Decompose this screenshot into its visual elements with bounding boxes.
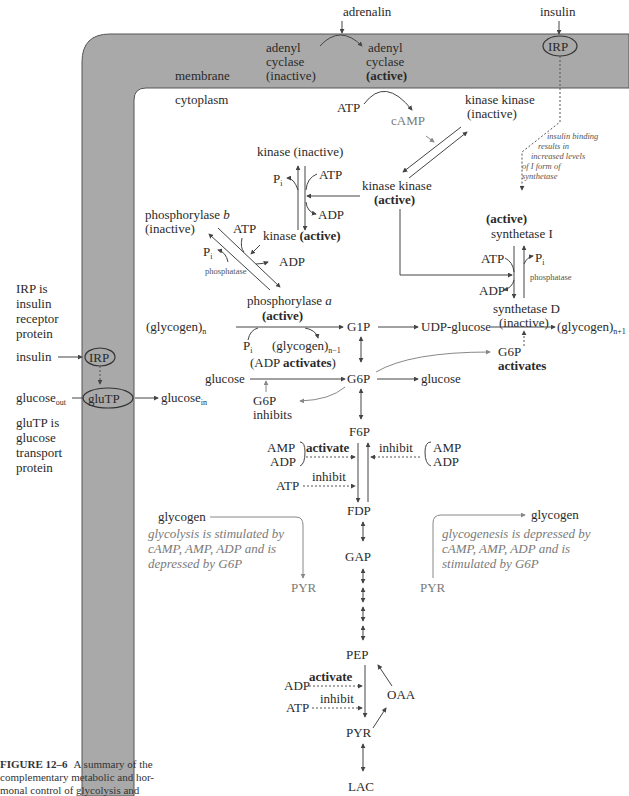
glycogenesis-text-3: stimulated by G6P — [442, 556, 539, 571]
kinase-adp: ADP — [318, 207, 344, 222]
adenyl-cyclase-active-1: adenyl — [368, 40, 403, 55]
glycogen-n-plus-1: (glycogen)n+1 — [557, 319, 626, 336]
glycogenesis-pyr: PYR — [420, 580, 446, 595]
adenyl-cyclase-active-3: (active) — [366, 68, 407, 83]
kinase-pi-arrow — [287, 178, 298, 190]
phosphorylase-b-label: phosphorylase b — [145, 207, 230, 222]
oaa-label: OAA — [387, 687, 416, 702]
atp-left: ATP — [276, 478, 299, 493]
kinase-inactive-label: kinase (inactive) — [257, 144, 343, 159]
phosphorylase-pi-arrow — [218, 250, 228, 262]
phosphorylase-inactivation-arrow — [209, 234, 270, 290]
amp-adp-bracket-left — [300, 442, 305, 466]
glucose-right-label: glucose — [421, 371, 461, 386]
synthetase-adp: ADP — [479, 283, 505, 298]
pyr-label: PYR — [346, 725, 372, 740]
kinase-pi: Pi — [273, 171, 283, 188]
kinase-atp-curve — [306, 174, 317, 190]
glycogen-n: (glycogen)n — [146, 319, 206, 336]
g1p-label: G1P — [347, 319, 370, 334]
kinase-kinase-active-2: (active) — [374, 192, 415, 207]
irp-note-left-4: protein — [16, 326, 53, 341]
phosphorylase-a-label: phosphorylase a — [247, 293, 332, 308]
insulin-top-label: insulin — [540, 4, 576, 19]
lac-label: LAC — [348, 779, 374, 794]
glycolysis-glycogen: glycogen — [158, 509, 206, 524]
glycogen-n-minus-1: (glycogen)n−1 — [272, 338, 341, 355]
inhibit-pep-label: inhibit — [320, 691, 354, 706]
oaa-to-pep-arrow — [378, 665, 392, 686]
irp-note-left-2: insulin — [16, 296, 52, 311]
kinase-active-label: kinase (active) — [263, 228, 341, 243]
synthetase-d-state: (inactive) — [499, 315, 549, 330]
glycolysis-text-2: cAMP, AMP, ADP and is — [148, 541, 276, 556]
kinase-kinase-inactive-1: kinase kinase — [465, 92, 535, 107]
pep-label: PEP — [346, 647, 368, 662]
synthetase-adp-arrow — [504, 280, 514, 290]
synthetase-pi: Pi — [535, 250, 545, 267]
amp-right: AMP — [433, 440, 461, 455]
phosphorylase-adp: ADP — [279, 254, 305, 269]
metabolic-control-diagram: membrane cytoplasm adrenalin adenyl cycl… — [0, 0, 629, 796]
glycolysis-text-1: glycolysis is stimulated by — [148, 526, 284, 541]
atp-pep: ATP — [286, 700, 309, 715]
kinase-kinase-inactive-2: (inactive) — [467, 106, 517, 121]
kk-activation-arrow — [403, 127, 461, 172]
gap-label: GAP — [345, 549, 371, 564]
glycogen-row-pi: Pi — [243, 338, 253, 355]
insulin-left-label: insulin — [16, 349, 52, 364]
adrenalin-label: adrenalin — [343, 4, 392, 19]
irp-left-label: IRP — [89, 350, 109, 365]
kk-inactivation-arrow — [409, 132, 467, 178]
glycogenesis-glycogen: glycogen — [531, 507, 579, 522]
irp-note-left-3: receptor — [16, 311, 59, 326]
figure-caption-2: complementary metabolic and hor- — [0, 771, 154, 783]
adp-left: ADP — [270, 454, 296, 469]
irp-note-1: insulin binding — [547, 131, 598, 141]
fdp-label: FDP — [347, 503, 371, 518]
pyr-to-oaa-arrow — [373, 708, 386, 728]
g6p-feedback-arrow — [300, 387, 345, 401]
figure-caption-3: monal control of glycolysis and — [0, 784, 140, 796]
glutp-note-3: transport — [16, 445, 63, 460]
kinase-kinase-active-1: kinase kinase — [362, 178, 432, 193]
glycogenesis-text-1: glycogenesis is depressed by — [442, 526, 591, 541]
atp-label: ATP — [337, 100, 360, 115]
synthetase-i-label: synthetase I — [491, 226, 553, 241]
phosphorylase-atp: ATP — [233, 221, 256, 236]
kinase-atp: ATP — [319, 167, 342, 182]
g6p-inhibits-1: G6P — [253, 393, 276, 408]
udp-glucose-label: UDP-glucose — [421, 319, 491, 334]
synthetase-phosphatase: phosphatase — [530, 272, 572, 282]
glycolysis-pyr: PYR — [291, 580, 317, 595]
phosphorylase-a-state: (active) — [262, 308, 303, 323]
figure-caption-1: FIGURE 12–6A summary of the — [0, 758, 153, 770]
atp-to-camp-arrow — [364, 91, 412, 110]
adp-right: ADP — [433, 454, 459, 469]
irp-note-left-1: IRP is — [16, 281, 48, 296]
synthetase-d-label: synthetase D — [493, 301, 560, 316]
f6p-label: F6P — [349, 424, 370, 439]
g6p-label: G6P — [347, 371, 370, 386]
inhibit-label-left: inhibit — [312, 469, 346, 484]
glucose-out-label: glucoseout — [16, 390, 67, 407]
adenyl-cyclase-inactive-1: adenyl — [266, 40, 301, 55]
phosphorylase-phosphatase: phosphatase — [205, 266, 247, 276]
activate-label: activate — [306, 440, 350, 455]
g6p-to-activates-arrow — [376, 352, 490, 372]
adenyl-cyclase-inactive-3: (inactive) — [266, 68, 316, 83]
phosphorylase-b-state: (inactive) — [145, 221, 195, 236]
amp-adp-bracket-right — [425, 442, 431, 466]
glutp-note-1: gluTP is — [16, 415, 59, 430]
irp-note-3: increased levels — [531, 151, 586, 161]
synthetase-atp: ATP — [481, 251, 504, 266]
phosphorylase-pi: Pi — [203, 244, 213, 261]
glycolysis-text-3: depressed by G6P — [148, 556, 242, 571]
irp-note-5: synthetase — [522, 171, 558, 181]
activate-pep-label: activate — [309, 669, 353, 684]
adp-activates-label: (ADP activates) — [250, 355, 336, 370]
adenyl-cyclase-inactive-2: cyclase — [266, 54, 304, 69]
adp-pep: ADP — [284, 678, 310, 693]
kinase-to-phosphorylase-arrow — [251, 245, 260, 254]
glucose-in-label: glucosein — [161, 390, 207, 407]
